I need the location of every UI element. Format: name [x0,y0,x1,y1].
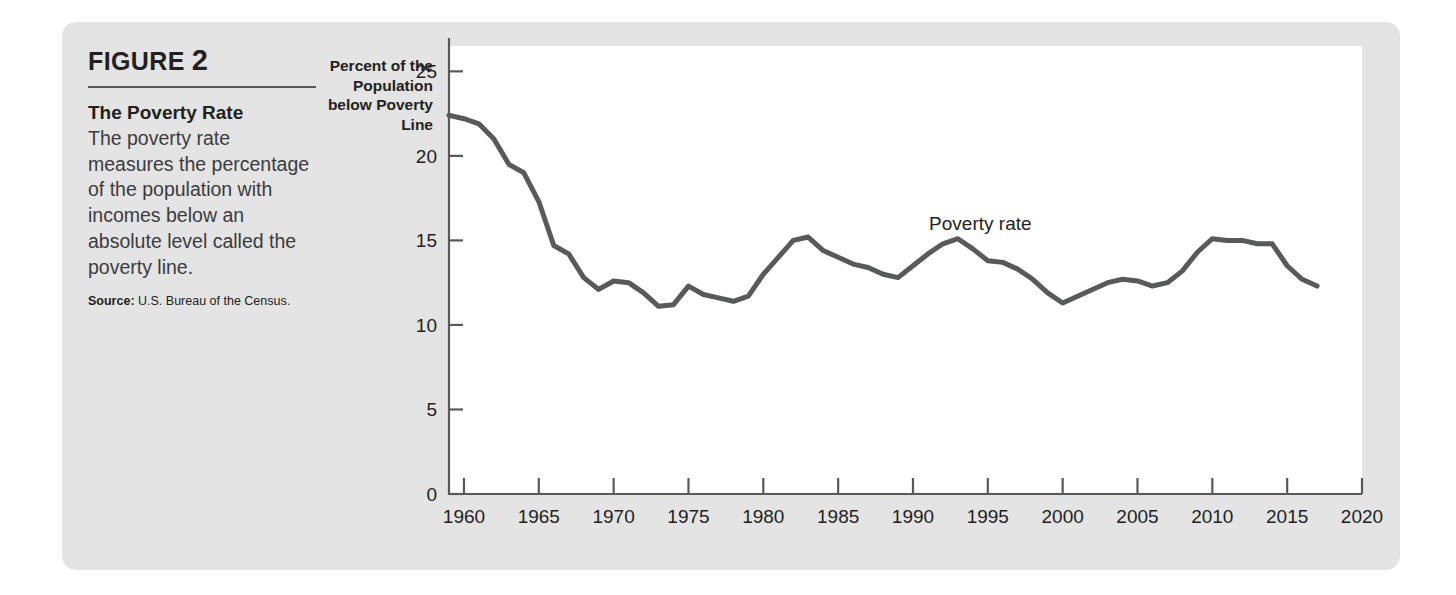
x-tick-label: 1990 [892,506,934,527]
y-tick-label: 0 [426,484,437,505]
y-tick-label: 10 [416,315,437,336]
x-tick-label: 1980 [742,506,784,527]
x-tick-label: 1965 [518,506,560,527]
x-tick-label: 2000 [1042,506,1084,527]
chart-annotations: Poverty rate [929,213,1031,234]
series-annotation-label: Poverty rate [929,213,1031,234]
y-tick-label: 25 [416,61,437,82]
figure-root: FIGURE2 The Poverty Rate The poverty rat… [0,0,1456,595]
chart-plot-area: 0510152025 19601965197019751980198519901… [0,0,1456,595]
x-tick-label: 2005 [1116,506,1158,527]
x-tick-label: 2015 [1266,506,1308,527]
y-tick-label: 5 [426,399,437,420]
x-tick-label: 1960 [443,506,485,527]
x-tick-label: 2010 [1191,506,1233,527]
x-tick-label: 1970 [592,506,634,527]
x-tick-label: 1985 [817,506,859,527]
y-tick-label: 15 [416,230,437,251]
x-tick-label: 1975 [667,506,709,527]
poverty-rate-line-chart: 0510152025 19601965197019751980198519901… [0,0,1456,595]
y-tick-label: 20 [416,146,437,167]
x-tick-label: 1995 [967,506,1009,527]
x-tick-label: 2020 [1341,506,1383,527]
